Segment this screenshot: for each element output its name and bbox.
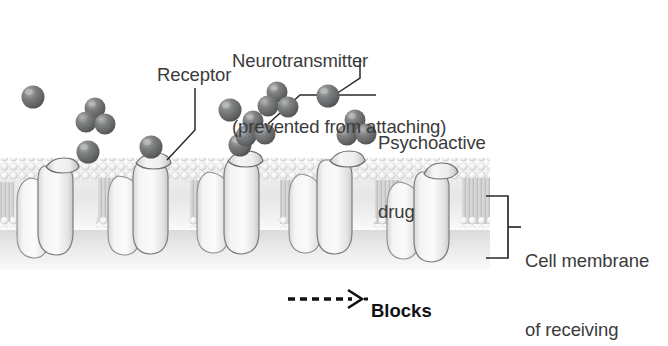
neurotransmitter-molecule [77,141,100,164]
label-blocks-natural-effect: Blocks natural effect [371,258,433,346]
label-psychoactive-drug-line1: Psychoactive [378,131,486,154]
label-psychoactive-drug-line2: drug [378,200,486,223]
cell-membrane-bracket [486,196,521,258]
leader-line-receptor [167,88,195,160]
label-cell-membrane-line1: Cell membrane [525,249,649,272]
label-neurotransmitter-line1: Neurotransmitter [232,50,446,72]
neurotransmitter-molecule [22,86,45,109]
blocked-effect-arrow [288,290,368,308]
neurotransmitter-molecule [140,136,163,159]
label-cell-membrane: Cell membrane of receiving neuron [525,203,649,346]
label-psychoactive-drug: Psychoactive drug [378,85,486,269]
label-cell-membrane-line2: of receiving [525,318,649,341]
neurotransmitter-cluster [76,98,116,135]
diagram-canvas: Neurotransmitter (prevented from attachi… [0,0,668,346]
label-blocks-line1: Blocks [371,300,433,321]
label-receptor: Receptor [157,64,231,86]
